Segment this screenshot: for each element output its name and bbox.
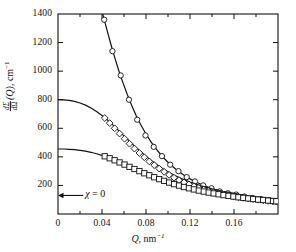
data-point <box>111 125 118 132</box>
y-tick-label: 800 <box>18 94 52 104</box>
series-markers-middle-curve <box>101 115 279 205</box>
data-series-layer <box>58 0 280 205</box>
x-tick-label: 0.16 <box>214 218 254 228</box>
data-point <box>143 133 148 138</box>
y-tick-label: 400 <box>18 151 52 161</box>
chart-figure: 200400600800100012001400 00.040.080.120.… <box>0 0 296 252</box>
y-tick-label: 1400 <box>18 8 52 18</box>
chi-zero-annotation: χ = 0 <box>85 188 105 199</box>
data-point <box>126 140 133 147</box>
y-tick-label: 600 <box>18 122 52 132</box>
data-point <box>126 97 131 102</box>
x-axis-title: Q, nm−1 <box>0 233 296 244</box>
data-point <box>118 73 123 78</box>
series-markers-upper-curve <box>102 17 279 204</box>
data-point <box>131 145 138 152</box>
x-tick-label: 0 <box>38 218 78 228</box>
chi-arrow-head <box>58 193 64 199</box>
annotation-layer <box>58 193 83 199</box>
data-point <box>102 17 107 22</box>
data-point <box>141 154 148 161</box>
series-line-upper-curve <box>95 0 278 201</box>
data-point <box>110 48 115 53</box>
data-point <box>116 130 123 137</box>
data-point <box>176 168 181 173</box>
data-point <box>106 120 113 127</box>
x-tick-label: 0.08 <box>126 218 166 228</box>
y-tick-label: 1000 <box>18 65 52 75</box>
y-tick-label: 1200 <box>18 37 52 47</box>
data-point <box>159 153 164 158</box>
data-point <box>184 174 189 179</box>
x-tick-label: 0.04 <box>82 218 122 228</box>
data-point <box>136 150 143 157</box>
data-point <box>151 144 156 149</box>
y-axis-title: dΣdΩ (Q), cm−1 <box>3 31 19 141</box>
y-axis-fraction: dΣdΩ <box>2 101 18 111</box>
y-tick-label: 200 <box>18 179 52 189</box>
data-point <box>168 162 173 167</box>
x-tick-label: 0.12 <box>170 218 210 228</box>
data-point <box>121 135 128 142</box>
data-point <box>135 117 140 122</box>
